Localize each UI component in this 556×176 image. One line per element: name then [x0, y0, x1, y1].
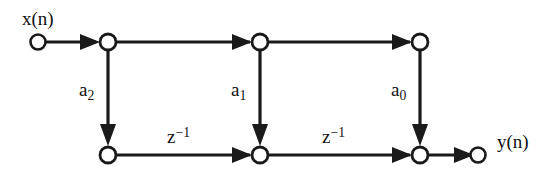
sum-node-top-3 — [412, 34, 428, 50]
edge-branch-a1 — [252, 42, 268, 146]
sum-node-bottom-1 — [100, 147, 116, 163]
signal-flow-diagram: x(n) y(n) a2 a1 a0 z−1 z−1 — [0, 0, 556, 176]
edge-branch-a0 — [412, 42, 428, 146]
edge-branch-a2 — [100, 42, 116, 146]
coefficient-label-a0: a0 — [391, 80, 406, 103]
coefficient-a2-subscript: 2 — [87, 88, 94, 103]
edge-node2-to-node3 — [260, 34, 412, 50]
sum-node-bottom-2 — [252, 147, 268, 163]
coefficient-a0-subscript: 0 — [399, 88, 406, 103]
edge-delay-2 — [260, 147, 412, 163]
output-node — [471, 148, 486, 163]
coefficient-a1-subscript: 1 — [239, 88, 246, 103]
sum-node-top-2 — [252, 34, 268, 50]
sum-node-bottom-3 — [412, 147, 428, 163]
input-node — [31, 35, 46, 50]
delay-label-1: z−1 — [167, 126, 190, 146]
input-signal-label: x(n) — [22, 9, 54, 28]
delay-1-superscript: −1 — [175, 125, 190, 140]
edge-node1-to-node2 — [108, 34, 252, 50]
sum-node-top-1 — [100, 34, 116, 50]
coefficient-label-a2: a2 — [79, 80, 94, 103]
coefficient-label-a1: a1 — [231, 80, 246, 103]
output-signal-label: y(n) — [497, 132, 529, 151]
edge-delay-1 — [108, 147, 252, 163]
delay-2-superscript: −1 — [330, 125, 345, 140]
edge-input-to-node1 — [46, 34, 100, 50]
delay-label-2: z−1 — [322, 126, 345, 146]
